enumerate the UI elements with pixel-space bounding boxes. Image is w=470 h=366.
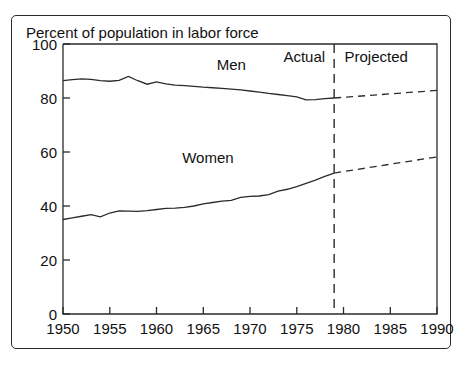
x-tick-label-1955: 1955 — [93, 320, 126, 337]
labor-force-line-chart: Percent of population in labor force 100… — [0, 0, 470, 366]
x-axis-tick-labels: 1950 1955 1960 1965 1970 1975 1980 1985 … — [46, 320, 453, 337]
x-tick-label-1990: 1990 — [420, 320, 453, 337]
y-axis-tick-labels: 100 80 60 40 20 0 — [32, 36, 57, 323]
x-tick-label-1985: 1985 — [374, 320, 407, 337]
y-tick-label-20: 20 — [40, 252, 57, 269]
x-tick-label-1970: 1970 — [233, 320, 266, 337]
men-actual-line — [63, 76, 334, 99]
y-tick-label-40: 40 — [40, 198, 57, 215]
x-tick-label-1960: 1960 — [140, 320, 173, 337]
men-projected-line — [334, 90, 437, 98]
chart-title: Percent of population in labor force — [26, 24, 259, 41]
x-tick-label-1965: 1965 — [187, 320, 220, 337]
y-axis-ticks — [63, 44, 70, 314]
x-tick-label-1950: 1950 — [46, 320, 79, 337]
men-series-label: Men — [217, 56, 246, 73]
x-tick-label-1980: 1980 — [327, 320, 360, 337]
projected-region-label: Projected — [345, 48, 408, 65]
actual-region-label: Actual — [283, 48, 325, 65]
x-axis-ticks — [63, 307, 437, 314]
chart-figure: Percent of population in labor force 100… — [0, 0, 470, 366]
women-projected-line — [334, 157, 437, 173]
plot-frame — [63, 44, 437, 314]
y-tick-label-60: 60 — [40, 144, 57, 161]
women-actual-line — [63, 173, 334, 219]
x-tick-label-1975: 1975 — [280, 320, 313, 337]
y-tick-label-80: 80 — [40, 90, 57, 107]
y-tick-label-100: 100 — [32, 36, 57, 53]
women-series-label: Women — [182, 149, 233, 166]
